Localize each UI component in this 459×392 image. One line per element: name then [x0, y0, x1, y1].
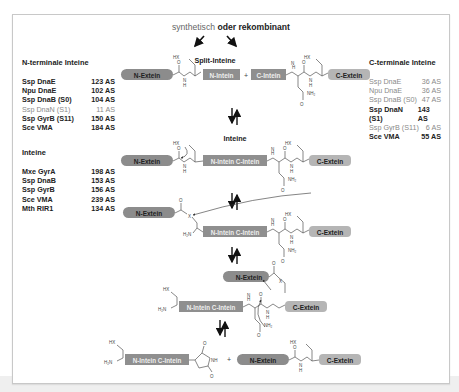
c-extein-label: C-Extein: [317, 229, 343, 236]
c-extein-label: C-Extein: [327, 357, 353, 364]
svg-text:H: H: [183, 169, 186, 174]
svg-text:H₂N: H₂N: [183, 232, 191, 237]
svg-text:HX: HX: [173, 55, 179, 60]
svg-text:O: O: [257, 333, 261, 338]
svg-text:NH₂: NH₂: [288, 248, 296, 253]
svg-text:X: X: [188, 214, 191, 219]
n-extein-label: N-Extein: [250, 357, 276, 364]
branched-intermediate-row: N-Extein O X HX H₂N N-Intein C-Intein H …: [158, 261, 327, 338]
svg-text:N: N: [271, 218, 274, 223]
svg-text:O: O: [283, 217, 287, 222]
svg-text:H₂N: H₂N: [158, 307, 166, 312]
c-extein-label: C-Extein: [293, 304, 319, 311]
plus-sign: +: [244, 72, 248, 79]
svg-text:O: O: [302, 60, 306, 65]
n-c-intein-label: N-Intein C-Intein: [133, 357, 182, 364]
svg-text:N: N: [291, 61, 294, 66]
svg-text:O: O: [177, 146, 181, 151]
svg-text:HX: HX: [109, 340, 115, 345]
svg-text:H: H: [290, 240, 293, 245]
svg-text:O: O: [281, 259, 285, 264]
svg-text:H₂N: H₂N: [104, 360, 112, 365]
c-extein-label: C-Extein: [336, 72, 362, 79]
svg-text:O: O: [283, 146, 287, 151]
svg-text:O: O: [177, 60, 181, 65]
svg-text:O: O: [203, 341, 207, 346]
svg-text:H: H: [266, 315, 269, 320]
stage-label-split: Split-Inteine: [194, 56, 235, 65]
split-intein-row: N-Extein O N H HX N-Intein + C-Intein H …: [121, 55, 370, 107]
intein-precursor-row: N-Extein O N H HX N-Intein C-Intein H N …: [121, 141, 351, 193]
svg-text:H: H: [183, 83, 186, 88]
svg-text:H: H: [309, 83, 312, 88]
svg-text:N: N: [247, 293, 250, 298]
svg-text:O: O: [272, 261, 276, 266]
n-c-intein-label: N-Intein C-Intein: [211, 158, 260, 165]
svg-text:H: H: [299, 368, 302, 373]
c-extein-label: C-Extein: [317, 158, 343, 165]
splicing-mechanism-diagram: Split-Inteine N-Extein O N H HX N-Intein…: [13, 15, 449, 383]
svg-text:HX: HX: [173, 141, 179, 146]
svg-text:O: O: [293, 345, 297, 350]
plus-sign: +: [227, 356, 231, 363]
svg-text:NH: NH: [211, 358, 218, 363]
svg-text:H: H: [290, 169, 293, 174]
n-c-intein-label: N-Intein C-Intein: [187, 304, 236, 311]
synthesis-arrows: [195, 36, 236, 46]
svg-text:O: O: [281, 188, 285, 193]
c-intein-label: C-Intein: [256, 72, 280, 79]
n-c-intein-label: N-Intein C-Intein: [211, 229, 260, 236]
figure-frame: synthetisch oder rekombinant N-terminale…: [12, 14, 450, 384]
n-extein-label: N-Extein: [134, 72, 160, 79]
svg-text:O: O: [179, 198, 183, 203]
n-intein-label: N-Intein: [209, 72, 233, 79]
equilibrium-arrow: [220, 320, 225, 337]
svg-text:NH₂: NH₂: [307, 91, 315, 96]
svg-text:O: O: [210, 374, 214, 379]
svg-text:O: O: [300, 102, 304, 107]
svg-text:O: O: [259, 292, 263, 297]
equilibrium-arrow: [232, 108, 237, 125]
succinimide-ring: [195, 353, 210, 368]
equilibrium-arrow: [232, 247, 237, 264]
n-extein-label: N-Extein: [134, 158, 160, 165]
stage-label-intein: Inteine: [223, 134, 246, 143]
products-row: HX H₂N N-Intein C-Intein O NH O + N-Exte…: [104, 340, 361, 379]
svg-text:HX: HX: [285, 141, 291, 146]
svg-text:HX: HX: [290, 340, 296, 345]
svg-text:NH₂: NH₂: [288, 177, 296, 182]
svg-text:HX: HX: [163, 287, 169, 292]
n-extein-label: N-Extein: [236, 274, 262, 281]
equilibrium-arrow: [232, 193, 237, 210]
svg-text:HX: HX: [304, 55, 310, 60]
svg-text:X: X: [279, 279, 282, 284]
n-extein-label: N-Extein: [136, 210, 162, 217]
svg-text:HX: HX: [285, 212, 291, 217]
svg-text:N: N: [271, 147, 274, 152]
svg-text:NH₂: NH₂: [264, 323, 272, 328]
